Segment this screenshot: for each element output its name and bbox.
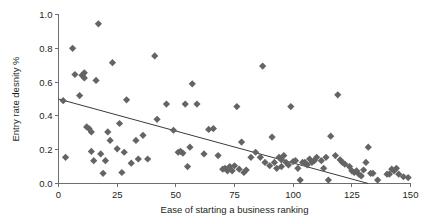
data-point-marker [365,144,372,151]
y-tick-label: 1.0 [39,9,52,20]
data-point-marker [200,150,207,157]
data-point-marker [247,154,254,161]
data-point-marker [189,80,196,87]
data-point-marker [104,128,111,135]
y-tick-label: 0.2 [39,144,52,155]
data-point-marker [116,120,123,127]
data-point-marker [332,152,339,159]
data-point-marker [128,160,135,167]
data-point-marker [99,170,106,177]
data-point-marker [294,165,301,172]
trend-line [59,99,369,184]
data-point-marker [88,148,95,155]
data-point-marker [121,149,128,156]
data-point-marker [92,77,99,84]
data-point-marker [95,20,102,27]
y-tick-label: 0.8 [39,43,52,54]
data-point-marker [405,174,412,181]
x-axis-title: Ease of starting a business ranking [161,204,309,215]
data-point-marker [153,116,160,123]
data-point-marker [76,92,83,99]
data-point-marker [151,52,158,59]
data-point-marker [214,152,221,159]
data-point-marker [297,177,304,184]
data-point-marker [233,103,240,110]
data-point-marker [114,145,121,152]
data-point-marker [97,150,104,157]
x-tick-label: 75 [229,189,240,200]
data-point-marker [252,149,259,156]
data-point-marker [62,154,69,161]
data-point-marker [109,59,116,66]
data-point-marker [186,144,193,151]
data-point-marker [334,91,341,98]
data-point-marker [135,155,142,162]
data-point-marker [374,177,381,184]
data-point-marker [210,125,217,132]
y-axis-title: Entry rate desnity % [10,56,21,142]
x-tick-label: 150 [403,189,419,200]
data-point-marker [102,157,109,164]
data-point-marker [287,103,294,110]
data-point-marker [123,96,130,103]
x-tick-label: 50 [171,189,182,200]
scatter-chart-figure: 0.00.20.40.60.81.00255075100125150Ease o… [0,0,429,224]
chart-canvas: 0.00.20.40.60.81.00255075100125150Ease o… [0,0,429,224]
x-tick-label: 25 [112,189,123,200]
x-tick-label: 0 [56,189,61,200]
y-tick-label: 0.6 [39,77,52,88]
data-point-marker [71,71,78,78]
data-point-marker [325,177,332,184]
data-point-marker [69,45,76,52]
data-point-marker [259,62,266,69]
data-point-marker [170,127,177,134]
data-point-marker [193,100,200,107]
x-tick-label: 100 [285,189,301,200]
data-point-marker [139,132,146,139]
data-point-marker [90,157,97,164]
data-point-marker [163,100,170,107]
x-tick-label: 125 [344,189,360,200]
data-point-marker [60,97,67,104]
data-point-marker [238,138,245,145]
data-point-marker [182,100,189,107]
data-point-marker [327,133,334,140]
data-point-marker [268,133,275,140]
data-point-marker [362,159,369,166]
y-tick-label: 0.0 [39,178,52,189]
data-point-marker [107,137,114,144]
data-point-marker [132,137,139,144]
data-point-marker [118,169,125,176]
data-point-marker [184,163,191,170]
y-tick-label: 0.4 [39,110,52,121]
data-point-marker [144,155,151,162]
